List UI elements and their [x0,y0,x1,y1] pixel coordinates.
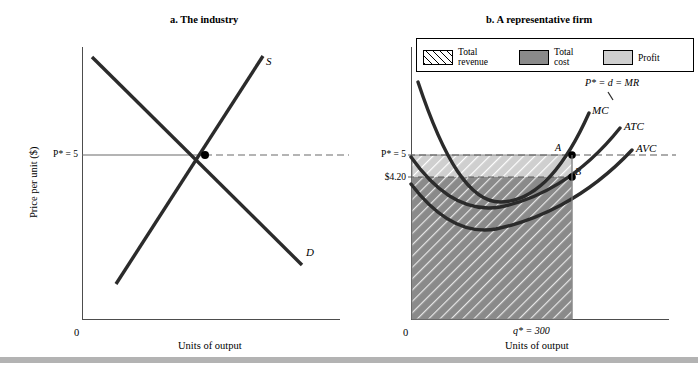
figure-canvas: a. The industry b. A representative firm… [0,0,698,369]
total-cost-region [412,177,572,319]
chart-vector-layer [0,0,698,369]
supply-curve-panel-a [116,56,263,284]
demand-label-pointer [608,92,613,100]
figure-bottom-rule [0,357,698,363]
equilibrium-point-panel-a [201,151,209,159]
profit-region [412,155,572,177]
